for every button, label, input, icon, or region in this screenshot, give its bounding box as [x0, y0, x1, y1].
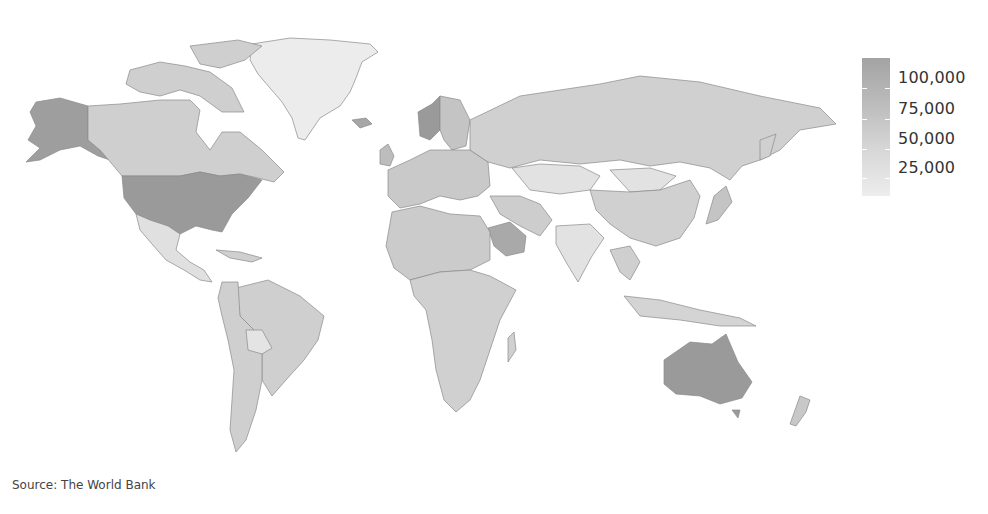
legend-label-75000: 75,000 — [898, 100, 955, 118]
legend-tick — [862, 149, 890, 150]
region-india[interactable] — [556, 224, 604, 282]
legend-color-bar — [862, 58, 890, 196]
region-caribbean[interactable] — [216, 250, 262, 262]
legend-tick — [862, 178, 890, 179]
region-kazakhstan[interactable] — [512, 164, 600, 194]
region-norway[interactable] — [418, 96, 440, 140]
region-russia[interactable] — [470, 76, 836, 180]
region-saudi-arabia[interactable] — [488, 222, 526, 256]
source-caption: Source: The World Bank — [12, 478, 156, 492]
world-map — [0, 0, 988, 514]
region-canada[interactable] — [88, 100, 284, 182]
legend-label-50000: 50,000 — [898, 130, 955, 148]
region-southeast-asia[interactable] — [610, 246, 640, 280]
region-iceland[interactable] — [352, 118, 372, 128]
region-sub-saharan-africa[interactable] — [410, 270, 516, 412]
legend-tick — [862, 119, 890, 120]
region-uk[interactable] — [380, 144, 394, 166]
region-canada-arctic[interactable] — [190, 40, 262, 68]
legend-label-25000: 25,000 — [898, 159, 955, 177]
region-europe[interactable] — [388, 150, 490, 208]
region-japan[interactable] — [706, 186, 732, 224]
legend-label-100000: 100,000 — [898, 69, 966, 87]
region-australia[interactable] — [664, 334, 752, 404]
region-sweden-finland[interactable] — [440, 96, 470, 150]
region-north-africa[interactable] — [386, 206, 490, 280]
region-tasmania[interactable] — [732, 410, 740, 418]
region-madagascar[interactable] — [508, 332, 516, 362]
region-new-zealand[interactable] — [790, 396, 810, 426]
region-indonesia[interactable] — [624, 296, 756, 326]
legend-tick — [862, 88, 890, 89]
